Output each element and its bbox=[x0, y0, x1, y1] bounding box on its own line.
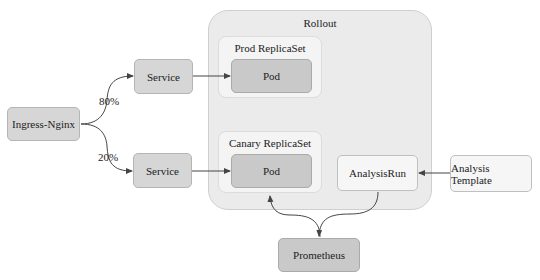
edge-label-80: 80% bbox=[99, 95, 119, 107]
edge-ingress-service-canary bbox=[81, 124, 132, 171]
edges-layer bbox=[0, 0, 540, 280]
edge-prometheus-pod-canary bbox=[270, 196, 320, 237]
edge-analysisrun-prometheus bbox=[319, 192, 378, 236]
edge-label-20: 20% bbox=[98, 151, 118, 163]
